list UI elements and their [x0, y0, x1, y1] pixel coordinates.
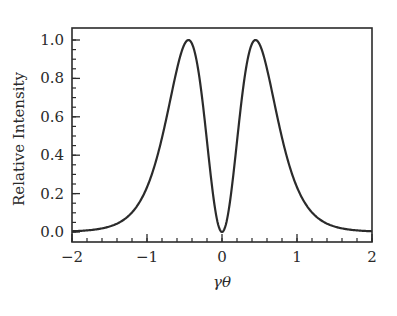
y-tick-label: 0.8 [40, 69, 64, 87]
minor-ticks [72, 40, 372, 242]
y-tick-label: 0.4 [40, 146, 64, 164]
plot-frame [72, 28, 372, 242]
y-tick-label: 0.6 [40, 108, 64, 126]
y-tick-labels: 0.00.20.40.60.81.0 [40, 31, 64, 241]
y-tick-label: 0.2 [40, 185, 64, 203]
major-ticks [72, 40, 372, 242]
x-tick-label: 0 [217, 248, 227, 266]
x-tick-label: 1 [292, 248, 302, 266]
intensity-curve [72, 40, 372, 232]
x-axis-label: γθ [213, 273, 231, 291]
y-tick-label: 1.0 [40, 31, 64, 49]
x-tick-label: 2 [367, 248, 377, 266]
x-tick-label: −2 [61, 248, 83, 266]
y-axis-label: Relative Intensity [10, 71, 28, 206]
y-tick-label: 0.0 [40, 223, 64, 241]
x-tick-labels: −2−1012 [61, 248, 377, 266]
x-tick-label: −1 [136, 248, 158, 266]
chart: −2−1012 0.00.20.40.60.81.0 γθ Relative I… [0, 0, 397, 316]
